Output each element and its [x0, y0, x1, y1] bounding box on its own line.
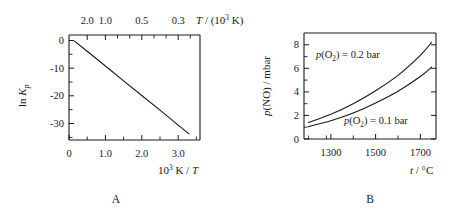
panel-b-x-axis-title: t / °C: [410, 164, 433, 176]
top-tick-label-3: 0.3: [172, 15, 185, 26]
panel-a: 2.0 1.0 0.5 0.3 T / (103 K) 0 -10 -20 -3…: [0, 0, 232, 217]
lnkp-line: [74, 41, 189, 134]
panel-a-x-tick-label-0: 0: [66, 148, 71, 159]
panel-a-y-tick-label-2: -20: [50, 90, 64, 101]
panel-a-x-axis-title: 103 K / T: [158, 163, 199, 176]
panel-a-x-tick-label-3: 3.0: [172, 148, 185, 159]
panel-a-x-tick-label-2: 2.0: [135, 148, 148, 159]
panel-a-x-tick-label-1: 1.0: [99, 148, 112, 159]
panel-a-x-ticks: [69, 135, 196, 140]
panel-a-plot: 2.0 1.0 0.5 0.3 T / (103 K) 0 -10 -20 -3…: [0, 0, 232, 217]
panel-b-x-tick-label-1: 1500: [365, 147, 386, 158]
panel-a-y-ticks: [69, 41, 74, 138]
panel-a-y-tick-label-0: 0: [59, 35, 64, 46]
panel-b-y-tick-label-0: 0: [294, 134, 299, 145]
panel-b-x-ticks: [309, 134, 421, 139]
panel-b-x-tick-label-2: 1700: [410, 147, 431, 158]
panel-b-y-tick-label-4: 8: [294, 39, 299, 50]
panel-b-y-tick-label-1: 2: [294, 110, 299, 121]
panel-a-y-axis-title: ln Kp: [16, 84, 31, 107]
panel-a-axes: [69, 35, 200, 140]
figure-container: 2.0 1.0 0.5 0.3 T / (103 K) 0 -10 -20 -3…: [0, 0, 464, 217]
panel-a-top-ticks: [87, 35, 190, 40]
panel-b: 0 2 4 6 8 1300 1500 1700 p(NO) / mbar t …: [232, 0, 464, 217]
panel-b-y-axis-title: p(NO) / mbar: [260, 56, 273, 117]
annotation-upper-curve: p(O2) = 0.2 bar: [315, 49, 380, 63]
panel-a-letter: A: [112, 193, 121, 205]
panel-b-plot: 0 2 4 6 8 1300 1500 1700 p(NO) / mbar t …: [232, 0, 464, 217]
panel-b-letter: B: [366, 193, 374, 205]
panel-a-y-tick-label-1: -10: [50, 63, 64, 74]
top-tick-label-1: 1.0: [99, 15, 112, 26]
panel-b-y-tick-label-2: 4: [294, 86, 300, 97]
top-tick-label-2: 0.5: [135, 15, 148, 26]
panel-a-y-tick-label-3: -30: [50, 118, 64, 129]
panel-b-y-tick-label-3: 6: [294, 63, 299, 74]
panel-b-x-tick-label-0: 1300: [320, 147, 341, 158]
annotation-lower-curve: p(O2) = 0.1 bar: [343, 115, 408, 129]
top-tick-label-0: 2.0: [81, 15, 94, 26]
